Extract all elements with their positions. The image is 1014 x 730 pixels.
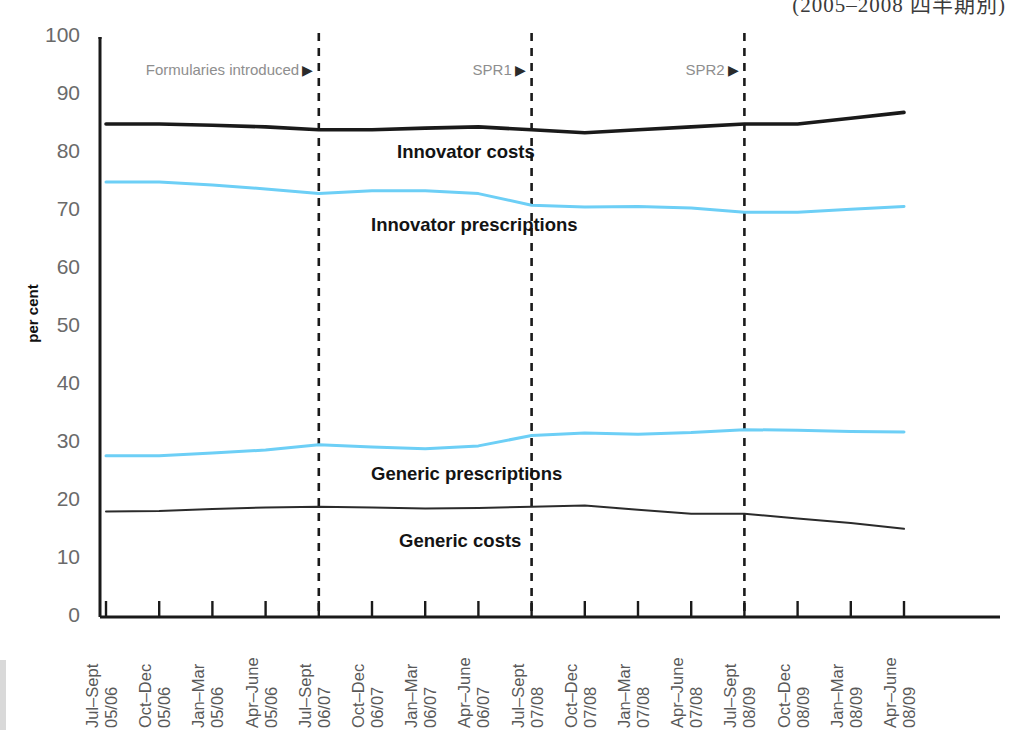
x-tick-label: Jul–Sept06/07 bbox=[279, 624, 331, 730]
x-tick-label-period: Jan–Mar bbox=[402, 664, 421, 728]
event-arrow-icon: ▶ bbox=[299, 62, 313, 78]
series-label-innovator-prescriptions: Innovator prescriptions bbox=[371, 214, 578, 236]
x-tick-label-year: 07/08 bbox=[687, 687, 706, 728]
x-tick-label-year: 07/08 bbox=[581, 687, 600, 728]
x-tick-label-year: 06/07 bbox=[421, 687, 440, 728]
x-tick-label-period: Oct–Dec bbox=[562, 664, 581, 728]
x-tick-label: Oct–Dec06/07 bbox=[332, 624, 384, 730]
x-tick-label-period: Apr–June bbox=[243, 657, 262, 728]
x-tick-label: Apr–June08/09 bbox=[864, 624, 916, 730]
x-tick-label: Apr–June06/07 bbox=[438, 624, 490, 730]
x-tick-label: Oct–Dec05/06 bbox=[119, 624, 171, 730]
x-tick-label-period: Jul–Sept bbox=[721, 664, 740, 728]
y-tick-label: 80 bbox=[28, 139, 80, 163]
x-tick-label-year: 08/09 bbox=[794, 687, 813, 728]
event-label-spr1: SPR1▶ bbox=[473, 61, 526, 78]
x-tick-label: Jan–Mar06/07 bbox=[385, 624, 437, 730]
x-tick-label-period: Oct–Dec bbox=[136, 664, 155, 728]
event-label-text: Formularies introduced bbox=[146, 61, 299, 78]
series-label-generic-costs: Generic costs bbox=[399, 530, 521, 552]
series-line-generic-costs bbox=[106, 506, 904, 529]
x-tick-label-period: Apr–June bbox=[668, 657, 687, 728]
x-tick-label-year: 05/06 bbox=[155, 687, 174, 728]
event-lines-group bbox=[319, 33, 745, 617]
event-arrow-icon: ▶ bbox=[512, 62, 526, 78]
event-label-spr2: SPR2▶ bbox=[685, 61, 738, 78]
x-tick-label: Oct–Dec08/09 bbox=[758, 624, 810, 730]
x-tick-label-period: Jan–Mar bbox=[189, 664, 208, 728]
y-tick-label: 20 bbox=[28, 487, 80, 511]
x-tick-label-year: 06/07 bbox=[474, 687, 493, 728]
x-tick-label: Jul–Sept05/06 bbox=[66, 624, 118, 730]
x-tick-label: Oct–Dec07/08 bbox=[545, 624, 597, 730]
y-tick-label: 100 bbox=[28, 23, 80, 47]
page-edge-artifact bbox=[0, 660, 6, 730]
event-arrow-icon: ▶ bbox=[725, 62, 739, 78]
y-tick-label: 30 bbox=[28, 429, 80, 453]
x-tick-label-year: 06/07 bbox=[368, 687, 387, 728]
series-label-generic-prescriptions: Generic prescriptions bbox=[371, 463, 562, 485]
series-line-innovator-costs bbox=[106, 112, 904, 132]
x-tick-label-year: 07/08 bbox=[634, 687, 653, 728]
x-tick-label: Apr–June07/08 bbox=[651, 624, 703, 730]
x-tick-label-period: Apr–June bbox=[455, 657, 474, 728]
x-tick-label-year: 05/06 bbox=[208, 687, 227, 728]
x-tick-label-period: Jan–Mar bbox=[828, 664, 847, 728]
series-line-generic-prescriptions bbox=[106, 430, 904, 456]
x-tick-label-period: Oct–Dec bbox=[775, 664, 794, 728]
chart-figure: (2005–2008 四半期別) 1009080706050403020100 … bbox=[0, 0, 1014, 730]
y-tick-label: 10 bbox=[28, 545, 80, 569]
x-tick-label-year: 06/07 bbox=[315, 687, 334, 728]
plot-canvas bbox=[0, 0, 1014, 730]
y-tick-label: 40 bbox=[28, 371, 80, 395]
x-tick-label-year: 07/08 bbox=[528, 687, 547, 728]
series-line-innovator-prescriptions bbox=[106, 182, 904, 212]
x-tick-label-period: Jul–Sept bbox=[83, 664, 102, 728]
axis-group bbox=[100, 37, 1000, 617]
x-tick-label: Jan–Mar08/09 bbox=[811, 624, 863, 730]
x-tick-label-year: 05/06 bbox=[262, 687, 281, 728]
x-tick-label-period: Jul–Sept bbox=[296, 664, 315, 728]
x-tick-label: Jul–Sept08/09 bbox=[704, 624, 756, 730]
x-tick-label: Jan–Mar07/08 bbox=[598, 624, 650, 730]
y-axis-title: per cent bbox=[24, 264, 41, 364]
x-tick-label-period: Jan–Mar bbox=[615, 664, 634, 728]
series-label-innovator-costs: Innovator costs bbox=[397, 141, 535, 163]
x-tick-label-period: Apr–June bbox=[881, 657, 900, 728]
event-label-text: SPR2 bbox=[685, 61, 724, 78]
x-tick-label: Apr–June05/06 bbox=[226, 624, 278, 730]
x-tick-label-year: 05/06 bbox=[102, 687, 121, 728]
x-tick-label-period: Jul–Sept bbox=[509, 664, 528, 728]
event-label-formularies-introduced: Formularies introduced▶ bbox=[146, 61, 313, 78]
y-tick-label: 70 bbox=[28, 197, 80, 221]
x-tick-label: Jul–Sept07/08 bbox=[492, 624, 544, 730]
event-label-text: SPR1 bbox=[473, 61, 512, 78]
x-tick-label: Jan–Mar05/06 bbox=[172, 624, 224, 730]
x-tick-label-year: 08/09 bbox=[847, 687, 866, 728]
x-tick-label-year: 08/09 bbox=[740, 687, 759, 728]
y-tick-label: 90 bbox=[28, 81, 80, 105]
x-tick-label-period: Oct–Dec bbox=[349, 664, 368, 728]
x-tick-label-year: 08/09 bbox=[900, 687, 919, 728]
